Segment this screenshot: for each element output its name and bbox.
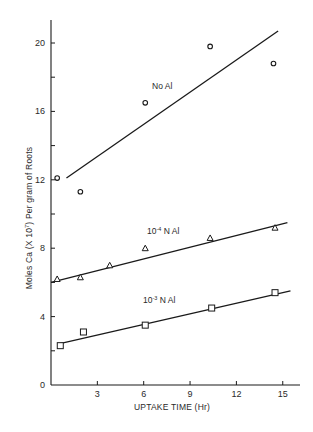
y-tick-label: 0 (40, 380, 45, 390)
x-axis-title: UPTAKE TIME (Hr) (134, 402, 210, 412)
data-point-square (272, 290, 278, 296)
series-label: No Al (152, 81, 172, 91)
y-tick-label: 4 (40, 312, 45, 322)
y-axis-title: Moles Ca (X 107) Per gram of Roots (24, 147, 34, 290)
x-tick-label: 15 (278, 389, 288, 399)
y-ticks: 048121620 (35, 38, 55, 390)
series-triangle: 10-4 N Al (51, 223, 287, 283)
y-tick-label: 16 (35, 106, 45, 116)
plot-area: 3691215 048121620 No Al10-4 N Al10-3 N A… (35, 20, 300, 399)
data-point-triangle (54, 276, 60, 282)
data-point-circle (208, 44, 213, 49)
data-point-circle (271, 61, 276, 66)
x-tick-label: 9 (188, 389, 193, 399)
data-point-triangle (207, 235, 213, 241)
y-tick-label: 8 (40, 243, 45, 253)
data-point-circle (78, 189, 83, 194)
data-point-triangle (142, 245, 148, 251)
x-tick-label: 12 (231, 389, 241, 399)
series-label: 10-4 N Al (147, 226, 179, 237)
data-point-square (80, 329, 86, 335)
data-point-square (57, 343, 63, 349)
data-point-square (142, 322, 148, 328)
series-layer: No Al10-4 N Al10-3 N Al (51, 31, 290, 349)
x-tick-label: 6 (141, 389, 146, 399)
y-tick-label: 20 (35, 38, 45, 48)
x-ticks: 3691215 (95, 381, 288, 399)
series-circle: No Al (55, 31, 278, 194)
chart: 3691215 048121620 No Al10-4 N Al10-3 N A… (0, 0, 313, 432)
data-point-triangle (107, 262, 113, 268)
data-point-circle (55, 176, 60, 181)
fit-line (66, 31, 278, 178)
data-point-circle (143, 101, 148, 106)
y-tick-label: 12 (35, 175, 45, 185)
series-square: 10-3 N Al (57, 290, 290, 349)
data-point-square (209, 305, 215, 311)
x-tick-label: 3 (95, 389, 100, 399)
series-label: 10-3 N Al (143, 295, 175, 306)
